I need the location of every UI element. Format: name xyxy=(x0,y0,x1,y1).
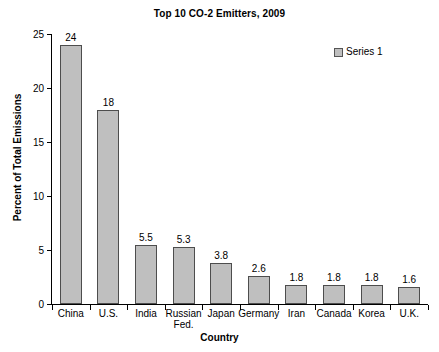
x-category-label: U.S. xyxy=(99,308,118,319)
x-category-label-line: China xyxy=(58,308,84,319)
bar-value-label: 1.8 xyxy=(365,272,379,283)
x-category-label-line: Germany xyxy=(238,308,279,319)
bar xyxy=(173,247,195,304)
x-category-label-line: Japan xyxy=(208,308,235,319)
y-tick-label: 15 xyxy=(33,137,44,148)
bar xyxy=(285,285,307,304)
bar-group: 5.5India xyxy=(127,34,165,304)
bar-group: 2.6Germany xyxy=(240,34,278,304)
bar-value-label: 3.8 xyxy=(214,250,228,261)
bar-value-label: 18 xyxy=(103,97,114,108)
bar-value-label: 24 xyxy=(65,32,76,43)
x-category-label-line: India xyxy=(135,308,157,319)
bar-value-label: 1.8 xyxy=(289,272,303,283)
bar xyxy=(60,45,82,304)
x-category-label: China xyxy=(58,308,84,319)
x-axis-title: Country xyxy=(0,332,439,343)
x-tick-mark xyxy=(90,305,91,310)
x-category-label: U.K. xyxy=(399,308,418,319)
bar-group: 1.8Canada xyxy=(315,34,353,304)
bar-group: 1.8Iran xyxy=(278,34,316,304)
y-tick-label: 10 xyxy=(33,191,44,202)
bar xyxy=(135,245,157,304)
x-category-label: Canada xyxy=(316,308,351,319)
x-tick-mark xyxy=(127,305,128,310)
bar xyxy=(361,285,383,304)
plot-area: 0510152025 24China18U.S.5.5India5.3Russi… xyxy=(52,34,428,304)
y-tick-label: 0 xyxy=(38,299,44,310)
bar-value-label: 1.6 xyxy=(402,274,416,285)
x-category-label: Germany xyxy=(238,308,279,319)
x-tick-mark xyxy=(390,305,391,310)
x-category-label: Iran xyxy=(288,308,305,319)
x-category-label-line: Russian xyxy=(166,308,202,319)
y-axis-title: Percent of Total Emissions xyxy=(12,83,23,233)
bar xyxy=(398,287,420,304)
chart-title: Top 10 CO-2 Emitters, 2009 xyxy=(0,8,439,19)
y-tick-label: 20 xyxy=(33,83,44,94)
bar-value-label: 1.8 xyxy=(327,272,341,283)
x-category-label: RussianFed. xyxy=(166,308,202,330)
x-tick-mark xyxy=(52,305,53,310)
bar-value-label: 2.6 xyxy=(252,263,266,274)
bar xyxy=(323,285,345,304)
bar-chart-figure: Top 10 CO-2 Emitters, 2009 Series 1 0510… xyxy=(0,0,439,352)
bar-group: 5.3RussianFed. xyxy=(165,34,203,304)
bar-value-label: 5.3 xyxy=(177,234,191,245)
bar-group: 24China xyxy=(52,34,90,304)
y-tick-label: 5 xyxy=(38,245,44,256)
bar-group: 18U.S. xyxy=(90,34,128,304)
y-tick-label: 25 xyxy=(33,29,44,40)
x-tick-mark xyxy=(202,305,203,310)
bar xyxy=(248,276,270,304)
x-category-label-line: Korea xyxy=(358,308,385,319)
x-tick-mark xyxy=(353,305,354,310)
bar-group: 3.8Japan xyxy=(202,34,240,304)
x-category-label-line: U.K. xyxy=(399,308,418,319)
bar-group: 1.6U.K. xyxy=(390,34,428,304)
bar-group: 1.8Korea xyxy=(353,34,391,304)
x-category-label: Korea xyxy=(358,308,385,319)
x-category-label-line: Canada xyxy=(316,308,351,319)
x-tick-mark xyxy=(428,305,429,310)
bar xyxy=(97,110,119,304)
bar-value-label: 5.5 xyxy=(139,232,153,243)
bar xyxy=(210,263,232,304)
x-category-label-line: Fed. xyxy=(166,319,202,330)
x-category-label-line: Iran xyxy=(288,308,305,319)
x-category-label-line: U.S. xyxy=(99,308,118,319)
x-category-label: India xyxy=(135,308,157,319)
x-category-label: Japan xyxy=(208,308,235,319)
